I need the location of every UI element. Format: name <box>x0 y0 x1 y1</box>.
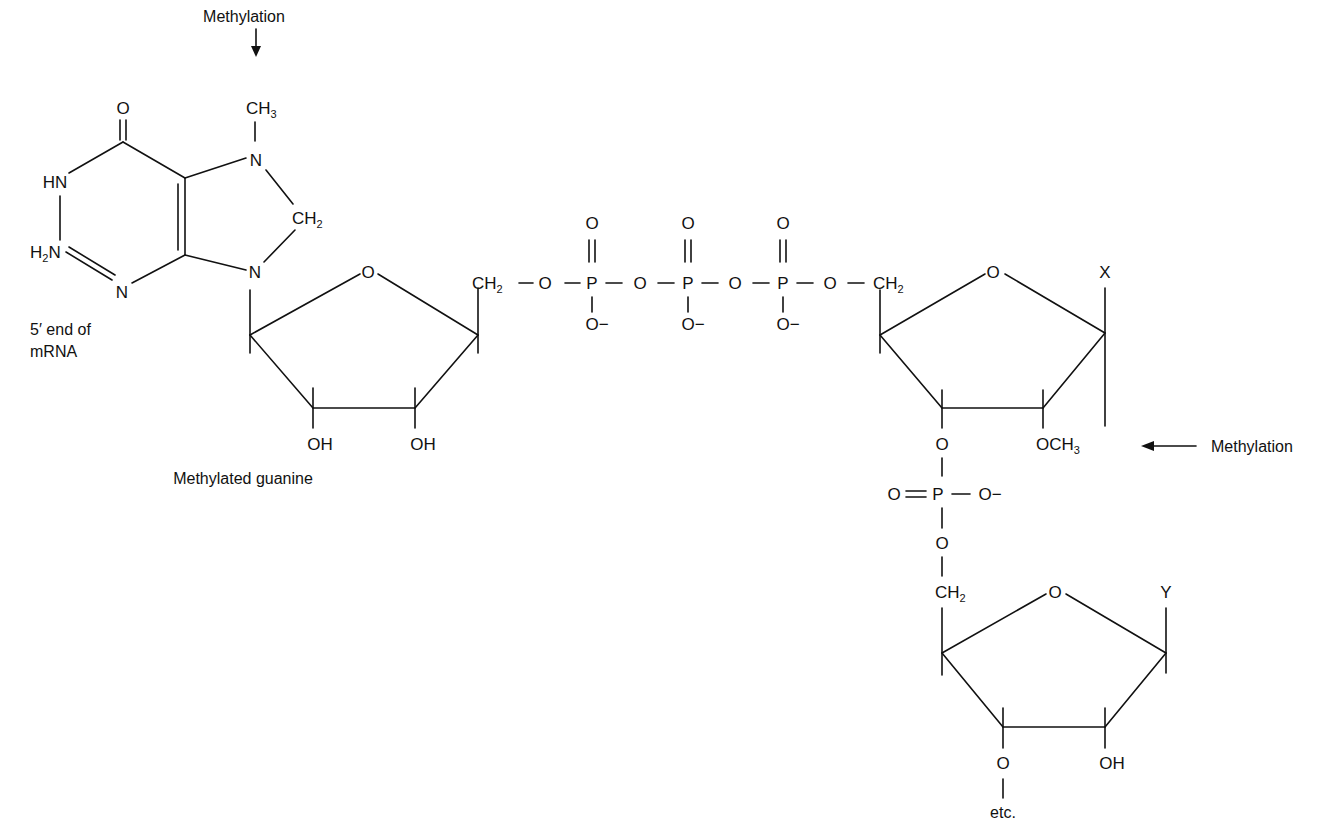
bond <box>250 274 360 335</box>
bond <box>880 335 942 408</box>
bond <box>1105 653 1166 727</box>
methylation-right-label: Methylation <box>1211 438 1293 455</box>
negative-oxygen: O− <box>681 315 704 334</box>
bond <box>69 247 115 275</box>
bond <box>378 274 478 335</box>
bond <box>1066 594 1166 653</box>
ring-oxygen: O <box>361 263 374 282</box>
base-x: X <box>1099 263 1110 282</box>
bridge-oxygen: O <box>633 274 646 293</box>
ch2-left: CH2 <box>472 274 503 295</box>
methylation-annotation-right: Methylation <box>1141 438 1293 455</box>
phosphorus-beta: P <box>682 274 693 293</box>
carbonyl-oxygen: O <box>116 99 129 118</box>
negative-oxygen: O− <box>776 315 799 334</box>
ch2-bottom: CH2 <box>935 583 966 604</box>
ring-nitrogen: N <box>116 283 128 302</box>
negative-oxygen: O− <box>978 485 1001 504</box>
phosphorus-alpha: P <box>586 274 597 293</box>
bond <box>250 335 313 408</box>
triphosphate-bridge: CH2 O P O O− O P O O− O P O O− O CH2 <box>472 214 904 334</box>
methyl-group: CH3 <box>246 99 277 120</box>
bond <box>66 252 112 280</box>
bond <box>264 230 295 262</box>
double-oxygen: O <box>776 214 789 233</box>
bond <box>942 653 1003 727</box>
mrna-cap-diagram: Methylation O HN H2N N N CH3 CH2 <box>0 0 1337 835</box>
ch2-right: CH2 <box>873 274 904 295</box>
five-prime-end-label: 5′ end of mRNA <box>30 321 91 360</box>
bond <box>185 255 246 270</box>
methylated-guanine-base: O HN H2N N N CH3 CH2 N <box>30 99 323 335</box>
negative-oxygen: O− <box>585 315 608 334</box>
first-nucleotide-ribose: O X O OCH3 <box>880 263 1111 456</box>
n9-atom: N <box>249 263 261 282</box>
arrow-down-icon <box>251 46 261 57</box>
ring-ch2: CH2 <box>292 209 323 230</box>
arrow-left-icon <box>1141 441 1154 451</box>
hydroxyl-2: OH <box>1099 754 1125 773</box>
h2n-atom: H2N <box>30 243 61 264</box>
etc-label: etc. <box>990 804 1016 821</box>
bond <box>266 170 293 204</box>
methylation-top-label: Methylation <box>203 8 285 25</box>
hn-atom: HN <box>43 173 68 192</box>
bond <box>69 142 123 173</box>
five-prime-line1: 5′ end of <box>30 321 91 338</box>
bond <box>185 158 246 178</box>
cap-ribose: O OH OH Methylated guanine <box>173 263 478 487</box>
five-prime-line2: mRNA <box>30 343 77 360</box>
o3-oxygen: O <box>996 754 1009 773</box>
bond <box>1043 333 1105 408</box>
phosphodiester-link: O P O− O CH2 <box>887 458 1001 604</box>
n7-atom: N <box>250 151 262 170</box>
methoxy-group: OCH3 <box>1036 435 1080 456</box>
bridge-oxygen: O <box>728 274 741 293</box>
o5-oxygen: O <box>935 534 948 553</box>
bridge-oxygen: O <box>823 274 836 293</box>
bond <box>1005 274 1105 333</box>
methylated-guanine-label: Methylated guanine <box>173 470 313 487</box>
phosphorus: P <box>932 485 943 504</box>
phosphorus-gamma: P <box>777 274 788 293</box>
bridge-oxygen: O <box>538 274 551 293</box>
double-oxygen: O <box>681 214 694 233</box>
o3-oxygen: O <box>935 435 948 454</box>
ring-oxygen: O <box>1048 583 1061 602</box>
bond <box>123 142 185 178</box>
second-nucleotide-ribose: O Y O OH etc. <box>942 583 1172 821</box>
base-y: Y <box>1160 583 1171 602</box>
double-oxygen: O <box>887 485 900 504</box>
bond <box>942 594 1046 653</box>
bond <box>132 255 185 283</box>
hydroxyl-2: OH <box>307 435 333 454</box>
methylation-annotation-top: Methylation <box>203 8 285 57</box>
ring-oxygen: O <box>986 263 999 282</box>
bond <box>415 335 478 408</box>
hydroxyl-3: OH <box>410 435 436 454</box>
double-oxygen: O <box>585 214 598 233</box>
